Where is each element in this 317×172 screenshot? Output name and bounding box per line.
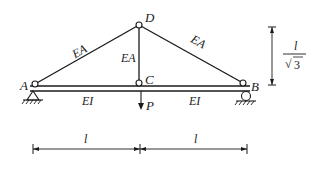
- load-arrow-icon: [138, 91, 144, 110]
- node-label-D: D: [144, 10, 155, 25]
- hinge-A: [32, 81, 38, 87]
- hinge-B: [240, 80, 246, 86]
- load-label-P: P: [145, 98, 154, 113]
- hinge-D: [136, 22, 142, 28]
- sqrt-symbol: √: [285, 57, 292, 71]
- span-dimension: l l: [33, 132, 247, 154]
- hinge-C: [136, 80, 142, 86]
- span-label-right: l: [194, 132, 198, 146]
- member-label-AC: EI: [81, 94, 94, 108]
- height-dimension: l √ 3: [268, 27, 306, 85]
- truss-diagram: A D C B P EA EA EA EI EI l √ 3 l l: [0, 0, 317, 172]
- node-label-A: A: [19, 78, 28, 93]
- member-DB: [139, 25, 243, 83]
- beam-ACB: [30, 86, 250, 91]
- node-label-C: C: [145, 72, 154, 87]
- member-label-DC: EA: [120, 51, 136, 65]
- member-label-CB: EI: [188, 94, 201, 108]
- member-label-AD: EA: [69, 41, 90, 61]
- span-label-left: l: [84, 132, 88, 146]
- member-label-DB: EA: [188, 32, 209, 52]
- node-label-B: B: [251, 79, 259, 94]
- height-numerator: l: [294, 39, 298, 53]
- height-denominator: 3: [294, 58, 300, 72]
